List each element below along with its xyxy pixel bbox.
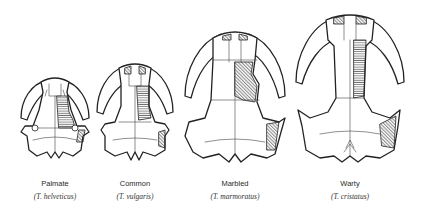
label-marbled: Marbled xyxy=(175,179,295,188)
latin-marbled: (T. marmoratus) xyxy=(175,192,295,201)
latin-warty: (T. cristatus) xyxy=(290,192,410,201)
marbled-skull xyxy=(185,32,285,162)
skull-figure: Palmate (T. helveticus) Common (T. vulga… xyxy=(0,0,422,212)
warty-skull xyxy=(296,15,404,162)
common-skull xyxy=(97,64,173,160)
palmate-skull xyxy=(21,78,89,158)
label-warty: Warty xyxy=(290,179,410,188)
